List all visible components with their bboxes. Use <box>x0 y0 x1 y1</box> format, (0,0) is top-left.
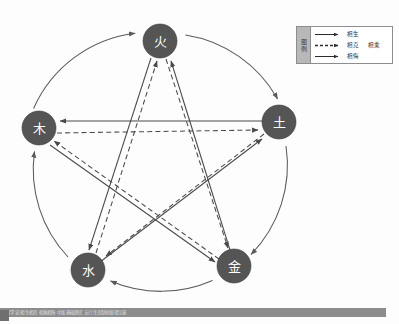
node-metal-label: 金 <box>228 259 241 274</box>
arc-water-to-wood <box>33 152 68 258</box>
edge-wood-to-metal <box>50 145 215 262</box>
legend-sample-solid-2 <box>314 53 344 60</box>
edge-wood-to-earth <box>57 130 258 133</box>
legend-row-shengke: 相克 相乘 <box>314 40 389 51</box>
edge-water-to-earth <box>100 139 262 262</box>
legend-label-2b: 相乘 <box>368 41 381 49</box>
legend-rows: 相生 相克 相乘 相侮 <box>311 27 392 63</box>
legend-row-shengsheng: 相生 <box>314 29 389 40</box>
node-earth[interactable]: 土 <box>262 105 296 139</box>
node-fire[interactable]: 火 <box>143 24 177 58</box>
node-wood-label: 木 <box>33 121 46 136</box>
edge-fire-to-water <box>89 58 151 250</box>
edge-metal-to-wood <box>54 141 219 259</box>
legend-label-2: 相克 <box>347 41 360 49</box>
legend-row-xiangwu: 相侮 <box>314 51 389 62</box>
legend-sample-dashed <box>314 42 344 49</box>
arc-fire-to-earth <box>185 35 277 99</box>
legend-label-3: 相侮 <box>347 52 360 60</box>
legend-tab: 图例 <box>297 27 311 63</box>
node-wood[interactable]: 木 <box>22 111 56 145</box>
edge-metal-to-fire <box>171 61 230 250</box>
arc-wood-to-fire <box>34 33 136 108</box>
arc-earth-to-metal <box>251 146 287 255</box>
node-metal[interactable]: 金 <box>217 249 251 283</box>
node-earth-label: 土 <box>273 115 286 130</box>
node-water-label: 水 <box>82 263 95 278</box>
arc-metal-to-water <box>111 281 213 292</box>
bottom-caption-text: 五行学说 相生相克 相乘相侮 中医基础理论 五行生克制化规律示意 <box>0 308 386 317</box>
edge-water-to-fire <box>96 61 157 253</box>
node-water[interactable]: 水 <box>71 253 105 287</box>
bottom-caption-bar: 五行学说 相生相克 相乘相侮 中医基础理论 五行生克制化规律示意 <box>0 308 386 317</box>
overcoming-edges <box>54 59 264 259</box>
legend-sample-solid-1 <box>314 31 344 38</box>
legend-label-1: 相生 <box>347 30 360 38</box>
generating-arcs <box>33 33 287 291</box>
diagram-canvas: 火 木 土 水 金 图例 <box>0 0 399 324</box>
legend-tab-label: 图例 <box>301 39 307 52</box>
bottom-bar-badge <box>0 310 9 321</box>
edge-fire-to-metal <box>166 59 228 248</box>
legend-box: 图例 相生 相克 相乘 <box>296 26 393 64</box>
node-fire-label: 火 <box>154 34 167 49</box>
